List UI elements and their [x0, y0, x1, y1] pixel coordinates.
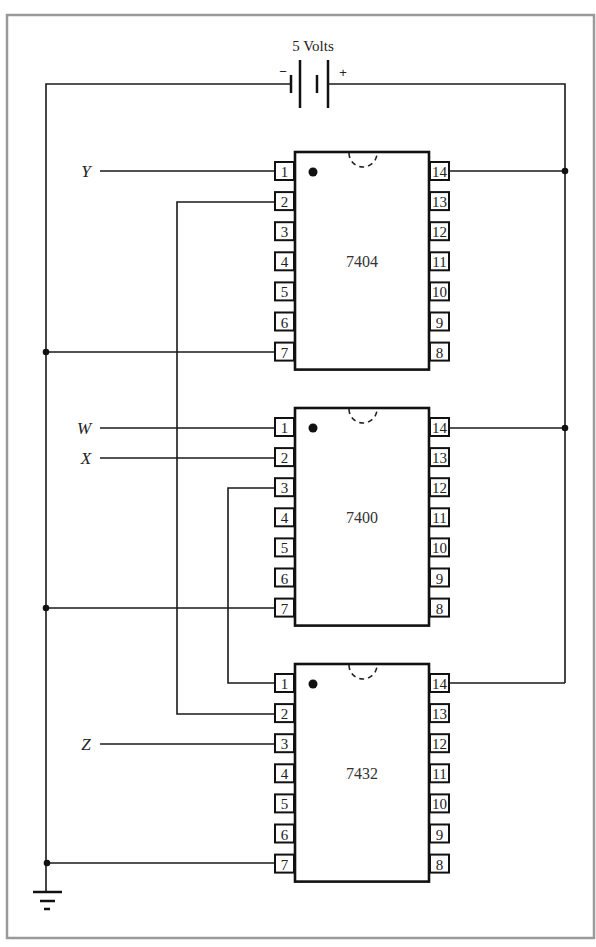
svg-text:8: 8 — [436, 601, 444, 617]
svg-text:3: 3 — [281, 224, 289, 240]
pin-8: 8 — [430, 599, 449, 617]
svg-text:7: 7 — [281, 345, 289, 361]
svg-text:14: 14 — [432, 420, 448, 436]
pin-11: 11 — [430, 764, 449, 782]
svg-text:10: 10 — [432, 796, 447, 812]
pin-3: 3 — [275, 734, 294, 752]
svg-text:6: 6 — [281, 315, 289, 331]
svg-text:9: 9 — [436, 827, 444, 843]
pin1-marker-icon — [309, 168, 318, 177]
svg-text:5: 5 — [281, 284, 289, 300]
pin-1: 1 — [275, 418, 294, 436]
pin-5: 5 — [275, 282, 294, 300]
pin-7: 7 — [275, 343, 294, 361]
pin-14: 14 — [430, 162, 449, 180]
pin-5: 5 — [275, 794, 294, 812]
pin-12: 12 — [430, 222, 449, 240]
input-w: W — [77, 419, 275, 438]
svg-text:2: 2 — [281, 194, 289, 210]
svg-text:11: 11 — [432, 510, 446, 526]
svg-text:2: 2 — [281, 706, 289, 722]
svg-text:1: 1 — [281, 676, 289, 692]
pin-9: 9 — [430, 825, 449, 843]
negative-terminal-label: − — [279, 64, 287, 79]
pin-4: 4 — [275, 252, 294, 270]
chip-7404: 74041234567141312111098 — [275, 152, 449, 370]
pin-8: 8 — [430, 855, 449, 873]
chip-7432: 74321234567141312111098 — [275, 664, 449, 882]
svg-text:5: 5 — [281, 796, 289, 812]
svg-text:12: 12 — [432, 736, 447, 752]
pin-13: 13 — [430, 704, 449, 722]
pin-11: 11 — [430, 508, 449, 526]
svg-text:12: 12 — [432, 224, 447, 240]
pin-13: 13 — [430, 192, 449, 210]
svg-text:4: 4 — [281, 766, 289, 782]
svg-text:6: 6 — [281, 827, 289, 843]
pin-13: 13 — [430, 448, 449, 466]
svg-text:12: 12 — [432, 480, 447, 496]
chip-label: 7404 — [346, 253, 378, 270]
pin-6: 6 — [275, 569, 294, 587]
chip-label: 7432 — [346, 765, 378, 782]
input-label-w: W — [77, 419, 93, 438]
positive-terminal-label: + — [339, 65, 347, 80]
circuit-diagram: 5 Volts − + Y W X Z — [0, 0, 596, 947]
svg-text:14: 14 — [432, 164, 448, 180]
ground-icon — [33, 892, 62, 909]
svg-text:8: 8 — [436, 345, 444, 361]
pin-5: 5 — [275, 538, 294, 556]
svg-text:13: 13 — [432, 706, 447, 722]
junction-dot — [562, 168, 569, 175]
svg-text:4: 4 — [281, 510, 289, 526]
svg-text:7: 7 — [281, 601, 289, 617]
svg-text:6: 6 — [281, 571, 289, 587]
svg-text:13: 13 — [432, 194, 447, 210]
pin1-marker-icon — [309, 424, 318, 433]
pin-12: 12 — [430, 734, 449, 752]
svg-text:1: 1 — [281, 164, 289, 180]
chip-label: 7400 — [346, 509, 378, 526]
pin1-marker-icon — [309, 680, 318, 689]
svg-text:8: 8 — [436, 857, 444, 873]
pin-3: 3 — [275, 222, 294, 240]
pin-2: 2 — [275, 704, 294, 722]
junction-dot — [562, 425, 569, 432]
pin-9: 9 — [430, 569, 449, 587]
pin-14: 14 — [430, 418, 449, 436]
input-label-x: X — [80, 449, 92, 468]
svg-text:14: 14 — [432, 676, 448, 692]
input-label-z: Z — [81, 735, 91, 754]
svg-text:5: 5 — [281, 540, 289, 556]
pin-3: 3 — [275, 478, 294, 496]
svg-text:7: 7 — [281, 857, 289, 873]
pin-8: 8 — [430, 343, 449, 361]
voltage-label: 5 Volts — [292, 38, 334, 54]
pin-7: 7 — [275, 855, 294, 873]
pin-9: 9 — [430, 313, 449, 331]
pin-14: 14 — [430, 674, 449, 692]
svg-text:10: 10 — [432, 284, 447, 300]
pin-1: 1 — [275, 162, 294, 180]
svg-text:3: 3 — [281, 480, 289, 496]
pin-4: 4 — [275, 764, 294, 782]
svg-text:2: 2 — [281, 450, 289, 466]
chip-7400: 74001234567141312111098 — [275, 408, 449, 626]
svg-text:9: 9 — [436, 315, 444, 331]
junction-dot — [43, 349, 50, 356]
battery-icon: 5 Volts − + — [279, 38, 347, 108]
pin-2: 2 — [275, 448, 294, 466]
pin-12: 12 — [430, 478, 449, 496]
input-y: Y — [81, 162, 275, 181]
pin-11: 11 — [430, 252, 449, 270]
svg-text:13: 13 — [432, 450, 447, 466]
pin-6: 6 — [275, 313, 294, 331]
svg-text:9: 9 — [436, 571, 444, 587]
svg-text:3: 3 — [281, 736, 289, 752]
wire-7400p3-to-7432p1 — [228, 488, 275, 683]
svg-text:11: 11 — [432, 766, 446, 782]
input-z: Z — [81, 735, 275, 754]
svg-text:4: 4 — [281, 254, 289, 270]
junction-dot — [43, 605, 50, 612]
svg-text:1: 1 — [281, 420, 289, 436]
